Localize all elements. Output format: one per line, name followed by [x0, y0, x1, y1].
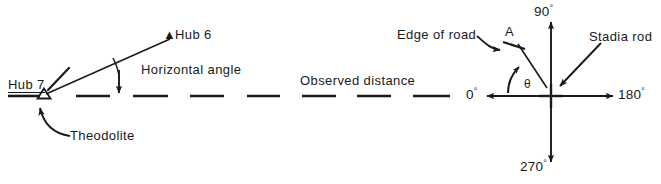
- stadia-rod-label: Stadia rod: [589, 30, 652, 43]
- bearing-label-90: 90°: [534, 5, 553, 19]
- edge-of-road-tick: [503, 42, 525, 49]
- bearing-label-180: 180°: [618, 88, 645, 102]
- edge-of-road-label: Edge of road: [397, 28, 476, 41]
- ray-center-to-point-a: [518, 44, 547, 88]
- horizontal-angle-label: Horizontal angle: [141, 63, 241, 76]
- surveying-figure: Hub 7 ▲ Hub 6 Horizontal angle Theodolit…: [0, 0, 661, 184]
- theodolite-standard-tick: [48, 68, 69, 90]
- figure-vector-layer: [0, 0, 661, 184]
- theodolite-leader-arrow: [40, 108, 70, 136]
- edge-of-road-leader-arrow: [477, 36, 500, 50]
- bearing-value-270: 270: [520, 159, 543, 174]
- observed-distance-label: Observed distance: [300, 74, 415, 87]
- theodolite-label: Theodolite: [70, 129, 135, 142]
- hub6-label: Hub 6: [175, 28, 212, 41]
- bearing-value-0: 0: [466, 87, 474, 102]
- theta-angle-arc: [508, 67, 519, 93]
- stadia-rod-leader-arrow: [560, 43, 601, 86]
- bearing-label-0: 0°: [466, 88, 478, 102]
- point-a-label: A: [505, 25, 514, 38]
- bearing-value-180: 180: [618, 87, 641, 102]
- hub7-label: Hub 7: [8, 78, 45, 93]
- degree-symbol-180: °: [641, 86, 645, 96]
- degree-symbol-90: °: [549, 3, 553, 13]
- compass-center-cross: [539, 84, 563, 108]
- bearing-value-90: 90: [534, 4, 549, 19]
- degree-symbol-0: °: [474, 86, 478, 96]
- bearing-label-270: 270°: [520, 160, 547, 174]
- theta-angle-label: θ: [524, 78, 531, 90]
- degree-symbol-270: °: [543, 158, 547, 168]
